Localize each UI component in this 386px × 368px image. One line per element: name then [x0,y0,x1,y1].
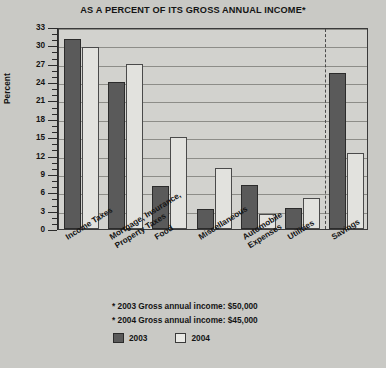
gridline [59,158,367,159]
legend-item-2003: 2003 [113,333,147,343]
y-tick-minor [52,163,57,164]
y-tick-major [48,28,57,29]
plot-frame [58,28,368,230]
y-tick-minor [52,114,57,115]
y-tick-minor [52,89,57,90]
bar-2004-0 [82,47,99,229]
gridline [59,176,367,177]
y-tick-minor [52,34,57,35]
gridline [59,139,367,140]
bar-2003-6 [329,73,346,229]
y-tick-minor [52,181,57,182]
y-tick-label: 15 [23,134,45,142]
y-tick-minor [52,187,57,188]
y-tick-label: 27 [23,61,45,69]
y-tick-minor [52,52,57,53]
y-tick-major [48,65,57,66]
y-tick-label: 0 [23,226,45,234]
y-tick-minor [52,77,57,78]
y-tick-major [48,138,57,139]
y-tick-minor [52,169,57,170]
y-tick-minor [52,71,57,72]
plot-area [59,29,367,229]
y-tick-minor [52,206,57,207]
y-tick-major [48,212,57,213]
bar-2003-0 [64,39,81,229]
gridline [59,66,367,67]
y-tick-minor [52,108,57,109]
savings-divider [325,29,326,229]
legend-label-2003: 2003 [129,333,147,343]
y-axis-title: Percent [2,73,12,104]
y-tick-major [48,101,57,102]
y-tick-minor [52,144,57,145]
y-tick-label: 33 [23,24,45,32]
y-tick-label: 24 [23,79,45,87]
legend-swatch-2003-icon [113,333,124,343]
y-tick-minor [52,150,57,151]
chart-title: AS A PERCENT OF ITS GROSS ANNUAL INCOME* [0,5,386,15]
y-tick-minor [52,218,57,219]
chart-figure: AS A PERCENT OF ITS GROSS ANNUAL INCOME*… [0,0,386,368]
y-tick-minor [52,132,57,133]
y-tick-label: 3 [23,208,45,216]
y-tick-label: 30 [23,42,45,50]
gridline [59,29,367,30]
gridline [59,47,367,48]
y-tick-minor [52,224,57,225]
footnote-2004: * 2004 Gross annual income: $45,000 [112,314,258,328]
legend-swatch-2004-icon [175,333,186,343]
y-tick-major [48,230,57,231]
y-tick-major [48,175,57,176]
gridline [59,194,367,195]
y-tick-major [48,46,57,47]
gridline [59,121,367,122]
gridline [59,84,367,85]
y-tick-minor [52,95,57,96]
y-tick-major [48,157,57,158]
y-tick-label: 12 [23,153,45,161]
y-tick-major [48,193,57,194]
chart-legend: 2003 2004 [113,333,232,343]
y-tick-minor [52,40,57,41]
y-tick-minor [52,199,57,200]
y-tick-label: 21 [23,97,45,105]
y-tick-label: 9 [23,171,45,179]
legend-item-2004: 2004 [175,333,209,343]
y-tick-major [48,83,57,84]
y-tick-minor [52,126,57,127]
y-tick-minor [52,59,57,60]
legend-label-2004: 2004 [191,333,209,343]
y-tick-label: 6 [23,189,45,197]
y-tick-label: 18 [23,116,45,124]
gridline [59,102,367,103]
chart-footnotes: * 2003 Gross annual income: $50,000 * 20… [112,300,258,327]
y-tick-major [48,120,57,121]
bar-2004-1 [126,64,143,229]
footnote-2003: * 2003 Gross annual income: $50,000 [112,300,258,314]
